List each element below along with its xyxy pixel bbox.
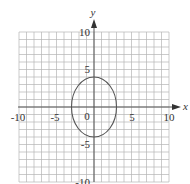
x-tick-label-neg10: -10 bbox=[11, 111, 26, 123]
y-tick-label-10: 10 bbox=[79, 26, 91, 38]
y-axis-arrow-icon bbox=[91, 19, 97, 28]
y-tick-label-neg10: -10 bbox=[75, 176, 90, 184]
x-tick-label-5: 5 bbox=[129, 111, 135, 123]
y-tick-label-5: 5 bbox=[85, 63, 91, 75]
x-tick-label-neg5: -5 bbox=[50, 111, 60, 123]
y-axis-label: y bbox=[90, 6, 96, 18]
y-tick-label-neg5: -5 bbox=[81, 138, 91, 150]
x-axis-arrow-icon bbox=[172, 104, 181, 110]
x-axis-label: x bbox=[182, 100, 188, 112]
x-tick-label-10: 10 bbox=[164, 111, 176, 123]
origin-label: 0 bbox=[84, 110, 90, 122]
coordinate-plane: x y -10 -5 0 5 10 10 5 -5 -10 bbox=[0, 0, 190, 184]
